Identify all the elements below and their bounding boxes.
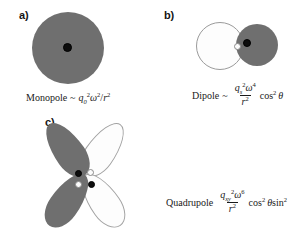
quadrupole-omega-exponent: 6 <box>241 188 244 195</box>
dipole-fraction-denominator: r2 <box>240 95 251 108</box>
quadrupole-fraction-denominator: r2 <box>227 202 238 215</box>
theta-symbol-dipole: θ <box>278 90 283 101</box>
quadrupole-caption: Quadrupole qxy2ω6 r2 cos2 θsin2 θ <box>166 190 289 214</box>
quadrupole-caption-name: Quadrupole <box>166 197 213 208</box>
dipole-cos-exponent: 2 <box>273 88 276 95</box>
dipole-cos-label: cos <box>260 90 273 101</box>
quadrupole-fraction: qxy2ω6 r2 <box>218 190 246 214</box>
monopole-relation-symbol: ~ <box>70 92 75 103</box>
quadrupole-cos-exponent: 2 <box>262 195 265 202</box>
monopole-caption-name: Monopole <box>26 92 67 103</box>
dipole-dark-lobe <box>236 24 278 66</box>
quadrupole-black-charge-dot-2 <box>88 181 95 188</box>
dipole-black-charge-dot <box>243 39 251 47</box>
dipole-angular-term: cos2 θ <box>260 90 284 101</box>
quadrupole-white-charge-dot-1 <box>87 169 94 176</box>
monopole-diagram <box>32 12 104 84</box>
quadrupole-diagram <box>33 126 137 224</box>
dipole-white-charge-dot <box>234 43 241 50</box>
dipole-fraction-numerator: qs2ω4 <box>233 83 258 95</box>
panel-label-b: b) <box>164 9 174 21</box>
dipole-relation-symbol: ~ <box>222 90 227 101</box>
dipole-omega-exponent: 4 <box>252 81 255 88</box>
multipole-radiation-figure: a) Monopole ~ q02ω2/r2 b) Dipole ~ qs2ω4… <box>0 0 289 233</box>
monopole-charge-subscript: 0 <box>84 98 87 105</box>
quadrupole-black-charge-dot-1 <box>75 170 82 177</box>
panel-label-a: a) <box>19 9 28 21</box>
quadrupole-fraction-numerator: qxy2ω6 <box>218 190 246 202</box>
quadrupole-sin-exponent: 2 <box>284 195 287 202</box>
quadrupole-radius-exponent: 2 <box>233 201 236 208</box>
monopole-black-charge-dot <box>63 43 72 52</box>
monopole-radius-exponent: 2 <box>107 91 110 98</box>
dipole-diagram <box>196 22 278 72</box>
quadrupole-white-charge-dot-2 <box>75 181 82 188</box>
dipole-caption: Dipole ~ qs2ω4 r2 cos2 θ <box>192 83 283 107</box>
monopole-caption: Monopole ~ q02ω2/r2 <box>26 92 110 103</box>
monopole-formula: q02ω2/r2 <box>79 92 111 103</box>
dipole-radius-exponent: 2 <box>246 94 249 101</box>
dipole-fraction: qs2ω4 r2 <box>233 83 258 107</box>
quadrupole-angular-term: cos2 θsin2 θ <box>249 197 289 208</box>
quadrupole-cos-label: cos <box>249 197 262 208</box>
dipole-caption-name: Dipole <box>192 90 219 101</box>
quadrupole-sin-label: sin <box>272 197 284 208</box>
